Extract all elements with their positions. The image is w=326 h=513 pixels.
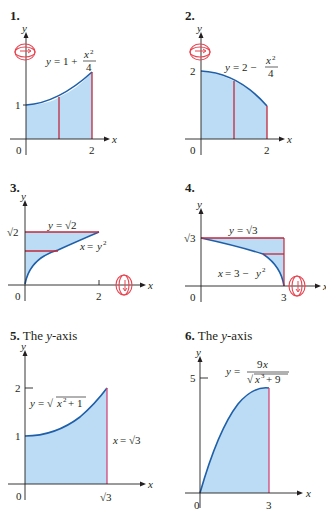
svg-text:4: 4 xyxy=(86,61,92,73)
svg-text:+ 1: + 1 xyxy=(68,397,82,409)
svg-text:2: 2 xyxy=(63,396,67,404)
svg-text:x: x xyxy=(147,279,153,291)
arrow-right-icon xyxy=(315,284,321,289)
svg-text:0: 0 xyxy=(15,290,21,302)
arrow-right-icon xyxy=(297,491,303,496)
svg-text:x: x xyxy=(262,358,268,370)
arrow-right-icon xyxy=(279,137,285,142)
svg-text:3: 3 xyxy=(261,372,265,380)
svg-text:y: y xyxy=(195,346,201,358)
svg-text:= √3: = √3 xyxy=(120,434,141,446)
svg-text:x: x xyxy=(286,133,292,145)
svg-text:2: 2 xyxy=(89,144,95,156)
svg-text:= 2 −: = 2 − xyxy=(233,61,256,73)
problem-2: 2. y x 0 2 2 y = 2 − x 2 4 xyxy=(163,0,326,170)
problem-2-graph: y x 0 2 2 y = 2 − x 2 4 xyxy=(163,0,326,170)
svg-text:y: y xyxy=(196,22,202,34)
svg-text:1: 1 xyxy=(15,99,21,111)
svg-text:x: x xyxy=(83,48,89,60)
rotation-icon xyxy=(15,44,35,60)
svg-text:y: y xyxy=(29,397,35,409)
svg-text:y: y xyxy=(225,365,231,377)
svg-text:x: x xyxy=(147,478,153,490)
svg-text:= 1 +: = 1 + xyxy=(54,55,77,67)
problem-5-graph: y x 0 √3 2 1 y = √ x 2 + 1 x = √3 xyxy=(0,320,163,513)
problem-1-graph: y x 0 2 1 y = 1 + x 2 4 xyxy=(0,0,163,170)
svg-text:x: x xyxy=(265,54,271,66)
svg-text:y: y xyxy=(224,61,230,73)
svg-text:=: = xyxy=(87,240,93,252)
problem-3-graph: y x 0 2 √2 y = √2 x = y 2 xyxy=(0,170,163,320)
svg-text:0: 0 xyxy=(190,144,196,156)
svg-text:x: x xyxy=(305,487,311,499)
svg-text:= √: = √ xyxy=(38,397,54,409)
svg-text:5: 5 xyxy=(190,372,196,384)
arrow-right-icon xyxy=(140,283,146,288)
svg-text:y: y xyxy=(21,22,27,34)
svg-text:y: y xyxy=(196,198,202,210)
svg-text:x: x xyxy=(79,240,85,252)
svg-text:2: 2 xyxy=(264,144,270,156)
problem-4: 4. y x 0 3 √3 y = √3 x = 3 − y 2 xyxy=(163,170,326,320)
svg-text:y: y xyxy=(20,340,26,352)
svg-text:√: √ xyxy=(247,373,254,385)
rotation-icon xyxy=(190,44,210,60)
svg-text:2: 2 xyxy=(190,65,196,77)
svg-text:2: 2 xyxy=(15,382,21,394)
problem-5: 5. The y-axis y x 0 √3 2 1 y = √ x 2 + 1… xyxy=(0,320,163,513)
problem-4-graph: y x 0 3 √3 y = √3 x = 3 − y 2 xyxy=(163,170,326,320)
svg-text:+ 9: + 9 xyxy=(266,373,281,385)
arrow-right-icon xyxy=(140,482,146,487)
svg-text:1: 1 xyxy=(15,430,21,442)
svg-text:2: 2 xyxy=(96,290,102,302)
problem-3: 3. y x 0 2 √2 y = √2 x = y 2 xyxy=(0,170,163,320)
svg-text:2: 2 xyxy=(90,48,94,56)
svg-text:y: y xyxy=(20,190,26,202)
svg-text:3: 3 xyxy=(281,291,287,303)
svg-text:= √2: = √2 xyxy=(56,219,77,231)
svg-text:x: x xyxy=(112,434,118,446)
svg-text:x: x xyxy=(217,267,223,279)
svg-text:=: = xyxy=(234,365,240,377)
arrow-right-icon xyxy=(104,137,110,142)
svg-text:= 3 −: = 3 − xyxy=(225,267,248,279)
svg-text:x: x xyxy=(111,133,117,145)
svg-text:0: 0 xyxy=(190,291,196,303)
svg-text:0: 0 xyxy=(16,144,22,156)
svg-text:= √3: = √3 xyxy=(237,224,258,236)
svg-text:0: 0 xyxy=(194,499,200,511)
svg-text:2: 2 xyxy=(103,239,107,247)
problem-1: 1. y x 0 2 1 y = 1 + x 2 4 xyxy=(0,0,163,170)
svg-text:y: y xyxy=(47,219,53,231)
svg-text:2: 2 xyxy=(272,54,276,62)
svg-text:y: y xyxy=(255,267,261,279)
svg-text:x: x xyxy=(254,373,260,385)
svg-text:√3: √3 xyxy=(100,491,112,503)
svg-text:0: 0 xyxy=(16,490,22,502)
svg-text:√3: √3 xyxy=(184,232,196,244)
svg-text:x: x xyxy=(56,397,62,409)
svg-text:y: y xyxy=(45,55,51,67)
problem-6-graph: y x 0 3 5 y = 9 x √ x 3 + 9 xyxy=(163,320,326,513)
svg-text:y: y xyxy=(96,240,102,252)
svg-text:x: x xyxy=(322,280,326,292)
svg-text:4: 4 xyxy=(268,67,274,79)
svg-text:2: 2 xyxy=(262,266,266,274)
problem-6: 6. The y-axis y x 0 3 5 y = 9 x √ x 3 + … xyxy=(163,320,326,513)
svg-text:3: 3 xyxy=(266,499,272,511)
svg-text:y: y xyxy=(228,224,234,236)
svg-text:√2: √2 xyxy=(7,226,19,238)
